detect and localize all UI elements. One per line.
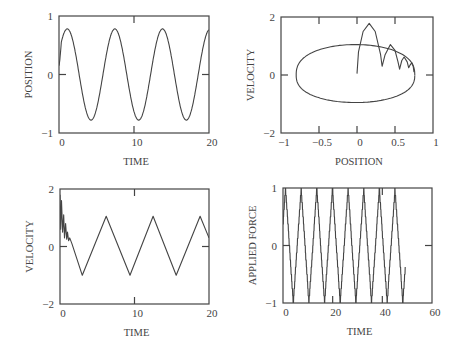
y-tick-label: 0 xyxy=(49,241,55,253)
y-tick-label: −1 xyxy=(41,127,53,139)
x-tick-label: 0 xyxy=(59,136,65,148)
y-tick-label: −2 xyxy=(42,298,54,310)
x-tick-label: −0.5 xyxy=(312,136,332,148)
y-tick-label: 2 xyxy=(270,11,276,23)
x-tick-label: 1 xyxy=(433,136,439,148)
x-tick-label: 10 xyxy=(132,307,144,319)
x-axis-label: TIME xyxy=(347,326,373,337)
x-axis-label: POSITION xyxy=(335,156,383,167)
x-tick-label: 0 xyxy=(283,306,289,318)
x-tick-label: 20 xyxy=(207,307,219,319)
y-tick-label: 0 xyxy=(48,69,54,81)
y-tick-label: −1 xyxy=(265,297,277,309)
position-vs-time-chart: 01020−101TIMEPOSITION xyxy=(23,10,218,167)
plot-frame xyxy=(60,189,209,304)
velocity-vs-time-chart: 01020−202TIMEVELOCITY xyxy=(24,183,218,338)
y-tick-label: 0 xyxy=(272,240,278,252)
x-tick-label: 0.5 xyxy=(391,136,405,148)
velocity-vs-position-chart: −1−0.500.51−202POSITIONVELOCITY xyxy=(245,11,439,167)
x-tick-label: 40 xyxy=(380,306,392,318)
limit-cycle-curve xyxy=(296,45,415,103)
x-tick-label: 20 xyxy=(207,136,219,148)
x-tick-label: 20 xyxy=(330,306,342,318)
x-tick-label: 10 xyxy=(132,136,144,148)
y-axis-label: POSITION xyxy=(23,50,34,98)
x-axis-label: TIME xyxy=(124,327,150,338)
y-axis-label: VELOCITY xyxy=(245,48,256,101)
x-axis-label: TIME xyxy=(123,156,149,167)
force-curve xyxy=(283,188,405,303)
plots-figure: 01020−101TIMEPOSITION−1−0.500.51−202POSI… xyxy=(0,0,451,348)
x-tick-label: 0 xyxy=(60,307,66,319)
y-tick-label: 0 xyxy=(270,69,276,81)
y-tick-label: −2 xyxy=(263,127,275,139)
velocity-curve xyxy=(60,195,209,275)
x-tick-label: 0 xyxy=(357,136,363,148)
y-axis-label: APPLIED FORCE xyxy=(247,206,258,286)
y-tick-label: 2 xyxy=(49,183,55,195)
plot-frame xyxy=(59,16,209,133)
position-curve xyxy=(59,29,209,120)
x-tick-label: 60 xyxy=(430,306,442,318)
plot-frame xyxy=(281,17,433,133)
y-tick-label: 1 xyxy=(48,10,54,22)
y-tick-label: 1 xyxy=(272,182,278,194)
x-tick-label: −1 xyxy=(278,136,290,148)
y-axis-label: VELOCITY xyxy=(24,220,35,273)
applied-force-vs-time-chart: 0204060−101TIMEAPPLIED FORCE xyxy=(247,182,441,337)
